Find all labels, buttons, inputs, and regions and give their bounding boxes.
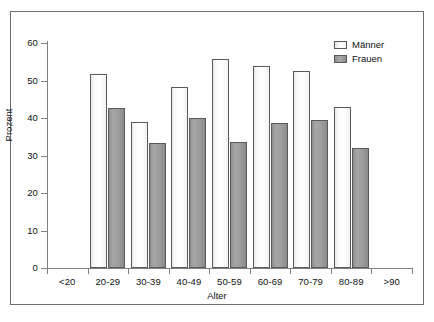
x-axis-line xyxy=(47,268,413,269)
chart-figure: 0102030405060 Prozent <2020-2930-3940-49… xyxy=(0,0,434,322)
x-axis-tick xyxy=(290,269,291,274)
x-axis-tick xyxy=(169,269,170,274)
x-axis-tick-label: >90 xyxy=(362,277,422,287)
plot-area xyxy=(47,43,412,268)
bar-maenner-70-79[interactable] xyxy=(293,71,310,268)
bar-frauen-50-59[interactable] xyxy=(230,142,247,268)
bar-maenner-50-59[interactable] xyxy=(212,59,229,268)
bar-frauen-80-89[interactable] xyxy=(352,148,369,268)
bar-frauen-30-39[interactable] xyxy=(149,143,166,268)
bar-maenner-30-39[interactable] xyxy=(131,122,148,268)
y-axis-tick-label: 60 xyxy=(0,38,38,48)
x-axis-tick xyxy=(209,269,210,274)
x-axis-tick xyxy=(88,269,89,274)
chart-legend: Männer Frauen xyxy=(334,39,414,67)
y-axis-tick-label: 10 xyxy=(0,226,38,236)
legend-item-maenner[interactable]: Männer xyxy=(334,39,414,51)
bar-maenner-20-29[interactable] xyxy=(90,74,107,268)
bar-maenner-40-49[interactable] xyxy=(171,87,188,268)
x-axis-tick xyxy=(128,269,129,274)
legend-label-frauen: Frauen xyxy=(352,54,382,64)
x-axis-tick xyxy=(250,269,251,274)
x-axis-tick xyxy=(412,269,413,274)
bar-maenner-60-69[interactable] xyxy=(253,66,270,268)
legend-item-frauen[interactable]: Frauen xyxy=(334,53,414,65)
x-axis-tick xyxy=(331,269,332,274)
y-axis-tick-label: 20 xyxy=(0,188,38,198)
bar-frauen-70-79[interactable] xyxy=(311,120,328,268)
legend-label-maenner: Männer xyxy=(352,40,384,50)
bar-frauen-20-29[interactable] xyxy=(108,108,125,268)
y-axis-tick-label: 0 xyxy=(0,263,38,273)
legend-swatch-frauen-icon xyxy=(334,55,347,63)
bar-frauen-60-69[interactable] xyxy=(271,123,288,268)
x-axis-tick xyxy=(47,269,48,274)
y-axis-title: Prozent xyxy=(4,80,14,170)
x-axis-title: Alter xyxy=(0,291,434,301)
legend-swatch-maenner-icon xyxy=(334,41,347,49)
bar-frauen-40-49[interactable] xyxy=(189,118,206,268)
x-axis-tick xyxy=(371,269,372,274)
bar-maenner-80-89[interactable] xyxy=(334,107,351,268)
